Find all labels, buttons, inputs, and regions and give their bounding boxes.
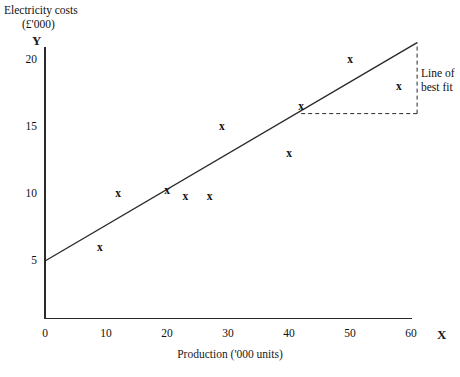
data-point: x — [347, 54, 353, 66]
scatter-chart: Electricity costs (£'000) Y X 5101520 01… — [0, 0, 460, 377]
best-fit-line-svg — [0, 0, 460, 377]
trend-line — [45, 43, 417, 261]
annotation-line1: Line of — [421, 66, 455, 80]
line-of-best-fit-annotation: Line of best fit — [421, 66, 455, 94]
data-point: x — [298, 101, 304, 113]
data-point: x — [219, 121, 225, 133]
data-point: x — [286, 148, 292, 160]
data-point: x — [164, 186, 170, 198]
data-point: x — [115, 188, 121, 200]
x-axis-caption: Production ('000 units) — [0, 348, 460, 360]
data-point: x — [97, 242, 103, 254]
annotation-line2: best fit — [421, 80, 455, 94]
data-point: x — [207, 191, 213, 203]
data-point: x — [396, 81, 402, 93]
data-point: x — [182, 191, 188, 203]
